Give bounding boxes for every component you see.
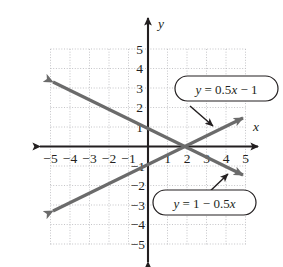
x-axis-label: x — [252, 119, 259, 134]
y-tick-2: 2 — [136, 100, 143, 115]
y-tick-3: 3 — [136, 81, 143, 96]
callout-increasing-label: y = 0.5x − 1 — [194, 82, 258, 97]
x-tick-5: 5 — [242, 151, 249, 166]
x-tick-neg5: −5 — [43, 151, 58, 166]
callout-decreasing-label: y = 1 − 0.5x — [172, 196, 236, 211]
x-tick-2: 2 — [184, 151, 191, 166]
x-tick-neg2: −2 — [102, 151, 116, 166]
callout-decreasing[interactable]: y = 1 − 0.5x — [153, 190, 256, 215]
y-tick-neg2: −2 — [131, 178, 145, 193]
callout-increasing-leader — [190, 106, 213, 126]
y-axis-label: y — [156, 16, 164, 31]
y-tick-5: 5 — [136, 42, 143, 57]
coordinate-plane: −5 −4 −3 −2 −1 1 2 3 4 5 5 4 3 2 1 −1 −2… — [0, 0, 283, 267]
x-tick-neg3: −3 — [82, 151, 97, 166]
y-tick-neg5: −5 — [131, 237, 146, 252]
y-tick-4: 4 — [136, 61, 143, 76]
callout-increasing[interactable]: y = 0.5x − 1 — [175, 76, 278, 101]
y-tick-neg4: −4 — [131, 217, 146, 232]
y-tick-neg3: −3 — [131, 198, 146, 213]
x-tick-neg4: −4 — [63, 151, 78, 166]
graph-figure: −5 −4 −3 −2 −1 1 2 3 4 5 5 4 3 2 1 −1 −2… — [0, 0, 283, 267]
x-tick-4: 4 — [223, 151, 230, 166]
